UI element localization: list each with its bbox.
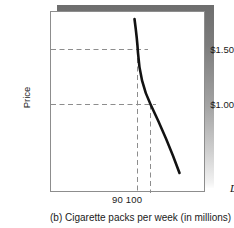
- figure-caption: (b) Cigarette packs per week (in million…: [50, 212, 234, 223]
- y-tick-label-150: $1.50: [190, 44, 234, 55]
- x-tick-label-100: 100: [126, 194, 142, 205]
- plot-frame: D: [50, 11, 205, 192]
- demand-curve-figure: D Price $1.50 $1.00 90 100 (b) Cigarette…: [0, 0, 234, 228]
- demand-curve-label: D: [230, 182, 234, 194]
- x-tick-label-90: 90: [112, 194, 123, 205]
- plot-canvas: [51, 12, 206, 193]
- x-tick-labels: 90 100: [112, 194, 142, 205]
- demand-curve: [135, 19, 180, 173]
- y-tick-label-100: $1.00: [190, 99, 234, 110]
- y-axis-title: Price: [21, 68, 32, 128]
